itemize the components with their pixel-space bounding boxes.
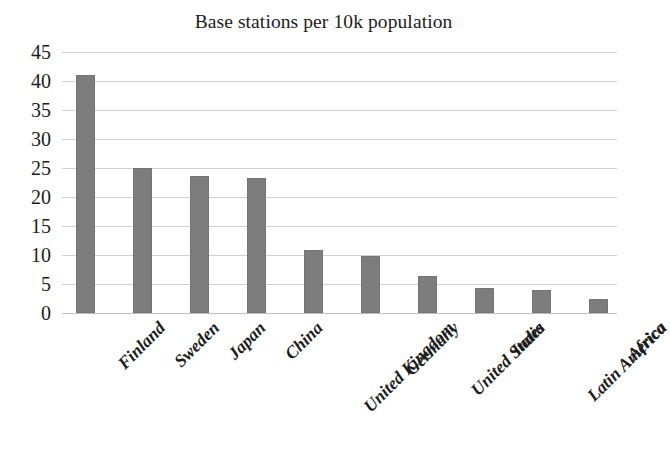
bar-china[interactable] (247, 178, 266, 313)
x-tick-label-africa: Africa (624, 319, 669, 364)
bar-united-kingdom[interactable] (304, 250, 323, 313)
x-tick-label-sweden: Sweden (171, 319, 223, 371)
y-tick-label-25: 25 (31, 158, 51, 178)
x-axis: FinlandSwedenJapanChinaUnited KingdomGer… (62, 313, 647, 463)
bars-layer (62, 52, 617, 313)
y-tick-label-10: 10 (31, 245, 51, 265)
bar-united-states[interactable] (418, 276, 437, 313)
y-tick-label-20: 20 (31, 187, 51, 207)
x-tick-label-japan: Japan (225, 319, 269, 363)
bar-africa[interactable] (589, 299, 608, 314)
y-tick-label-0: 0 (41, 303, 51, 323)
bar-latin-america[interactable] (532, 290, 551, 313)
y-tick-label-30: 30 (31, 129, 51, 149)
bar-japan[interactable] (190, 176, 209, 313)
bar-finland[interactable] (76, 75, 95, 313)
y-axis: 051015202530354045 (0, 52, 56, 313)
bar-germany[interactable] (361, 256, 380, 313)
bar-sweden[interactable] (133, 168, 152, 313)
x-tick-label-china: China (282, 319, 326, 363)
x-tick-label-finland: Finland (115, 319, 169, 373)
bar-india[interactable] (475, 288, 494, 313)
y-tick-label-40: 40 (31, 71, 51, 91)
y-tick-label-45: 45 (31, 42, 51, 62)
y-tick-label-5: 5 (41, 274, 51, 294)
y-tick-label-15: 15 (31, 216, 51, 236)
x-tick-label-india: India (508, 319, 548, 359)
y-tick-label-35: 35 (31, 100, 51, 120)
chart-title: Base stations per 10k population (0, 11, 647, 33)
